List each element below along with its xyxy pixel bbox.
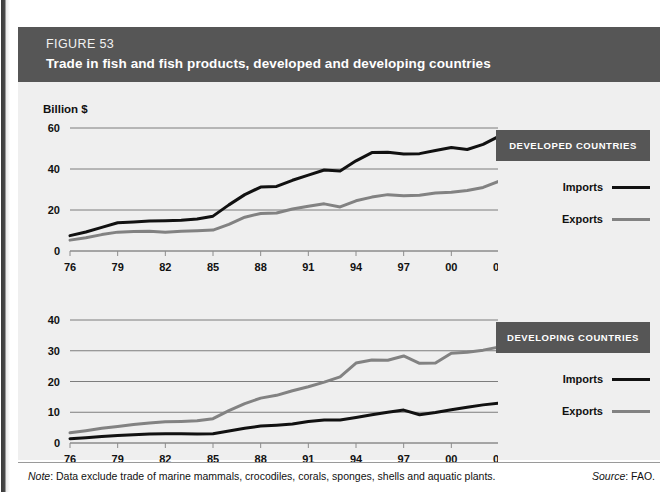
y-axis-tick-label: 20 [48, 204, 60, 216]
x-axis-tick-label: 91 [302, 261, 314, 273]
legend-label-imports-developed: Imports [563, 181, 603, 193]
series-line-exports [70, 347, 498, 433]
plot-area-developed: 020406076798285889194970003 [18, 120, 498, 290]
figure-source: Source: FAO. [592, 470, 655, 482]
y-axis-tick-label: 60 [48, 122, 60, 134]
figure-number: FIGURE 53 [46, 35, 660, 53]
x-axis-tick-label: 82 [159, 261, 171, 273]
legend-title-developed: DEVELOPED COUNTRIES [509, 140, 637, 151]
footer-divider [18, 462, 660, 463]
x-axis-tick-label: 79 [112, 261, 124, 273]
legend-developing-countries: DEVELOPING COUNTRIES Imports Exports [496, 322, 660, 417]
legend-label-exports-developed: Exports [562, 213, 603, 225]
series-line-imports [70, 136, 498, 235]
legend-label-exports-developing: Exports [562, 405, 603, 417]
plot-area-developing: 01020304076798285889194970003 [18, 312, 498, 482]
x-axis-tick-label: 00 [445, 261, 457, 273]
legend-developed-countries: DEVELOPED COUNTRIES Imports Exports [496, 130, 660, 225]
legend-swatch-imports-developing [612, 378, 650, 381]
x-axis-tick-label: 88 [255, 453, 267, 465]
legend-entry-exports-developed: Exports [496, 213, 650, 225]
x-axis-tick-label: 97 [398, 453, 410, 465]
x-axis-tick-label: 76 [64, 261, 76, 273]
x-axis-tick-label: 03 [493, 261, 498, 273]
source-body: : FAO. [625, 470, 655, 482]
legend-title-developing: DEVELOPING COUNTRIES [507, 332, 639, 343]
legend-swatch-exports-developed [612, 218, 650, 221]
x-axis-tick-label: 88 [255, 261, 267, 273]
figure-header: FIGURE 53 Trade in fish and fish product… [18, 27, 660, 82]
legend-swatch-imports-developed [612, 186, 650, 189]
series-line-exports [70, 181, 498, 240]
x-axis-tick-label: 00 [445, 453, 457, 465]
x-axis-tick-label: 85 [207, 261, 219, 273]
y-axis-tick-label: 40 [48, 314, 60, 326]
legend-title-box-developed: DEVELOPED COUNTRIES [496, 130, 650, 161]
y-axis-tick-label: 30 [48, 345, 60, 357]
y-axis-tick-label: 40 [48, 163, 60, 175]
series-line-imports [70, 403, 498, 439]
x-axis-tick-label: 82 [159, 453, 171, 465]
legend-entry-imports-developed: Imports [496, 181, 650, 193]
x-axis-tick-label: 94 [350, 453, 363, 465]
y-axis-tick-label: 20 [48, 376, 60, 388]
legend-label-imports-developing: Imports [563, 373, 603, 385]
source-label: Source [592, 470, 625, 482]
y-axis-unit-label: Billion $ [43, 103, 88, 115]
legend-entry-imports-developing: Imports [496, 373, 650, 385]
figure-note: Note: Data exclude trade of marine mamma… [28, 470, 496, 482]
x-axis-tick-label: 03 [493, 453, 498, 465]
note-label: Note [28, 470, 50, 482]
page-scan-gutter [0, 0, 10, 492]
x-axis-tick-label: 91 [302, 453, 314, 465]
legend-swatch-exports-developing [612, 410, 650, 413]
figure-title: Trade in fish and fish products, develop… [46, 54, 660, 74]
x-axis-tick-label: 85 [207, 453, 219, 465]
x-axis-tick-label: 94 [350, 261, 363, 273]
y-axis-tick-label: 0 [54, 437, 60, 449]
x-axis-tick-label: 97 [398, 261, 410, 273]
legend-entry-exports-developing: Exports [496, 405, 650, 417]
x-axis-tick-label: 76 [64, 453, 76, 465]
y-axis-tick-label: 10 [48, 406, 60, 418]
figure-card: FIGURE 53 Trade in fish and fish product… [18, 27, 660, 460]
y-axis-tick-label: 0 [54, 245, 60, 257]
x-axis-tick-label: 79 [112, 453, 124, 465]
note-body: : Data exclude trade of marine mammals, … [50, 470, 495, 482]
legend-title-box-developing: DEVELOPING COUNTRIES [496, 322, 650, 353]
